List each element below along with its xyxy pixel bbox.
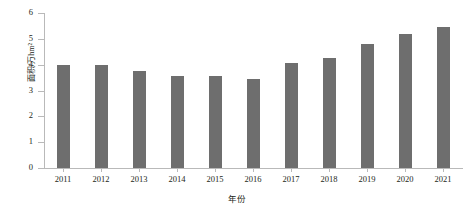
x-tick-label: 2017 bbox=[283, 174, 300, 184]
bar bbox=[209, 76, 222, 168]
x-tick-label: 2013 bbox=[131, 174, 148, 184]
y-axis-tick-labels: 0123456 bbox=[0, 0, 44, 211]
bar-slot bbox=[158, 13, 196, 168]
x-tick-mark bbox=[253, 168, 254, 172]
bar bbox=[361, 44, 374, 168]
x-axis-title: 年份 bbox=[0, 192, 473, 204]
x-tick-label: 2021 bbox=[435, 174, 452, 184]
bar bbox=[171, 76, 184, 168]
x-tick-mark bbox=[405, 168, 406, 172]
x-tick-mark bbox=[443, 168, 444, 172]
x-tick-mark bbox=[291, 168, 292, 172]
bar bbox=[285, 63, 298, 168]
bar-slot bbox=[310, 13, 348, 168]
bar-slot bbox=[234, 13, 272, 168]
y-tick-label: 2 bbox=[0, 111, 33, 120]
bar bbox=[437, 27, 450, 168]
bar-chart: 0123456 面积/万hm² 201120122013201420152016… bbox=[0, 0, 473, 211]
x-tick-mark bbox=[101, 168, 102, 172]
x-tick-label: 2018 bbox=[321, 174, 338, 184]
x-tick-label: 2016 bbox=[245, 174, 262, 184]
bar-slot bbox=[44, 13, 82, 168]
y-tick-label: 0 bbox=[0, 163, 33, 172]
bar-slot bbox=[82, 13, 120, 168]
x-tick-label: 2011 bbox=[55, 174, 72, 184]
bar-series bbox=[44, 13, 462, 168]
bar-slot bbox=[348, 13, 386, 168]
x-tick-mark bbox=[367, 168, 368, 172]
bar bbox=[247, 79, 260, 168]
x-tick-mark bbox=[139, 168, 140, 172]
bar bbox=[95, 65, 108, 168]
x-tick-label: 2020 bbox=[397, 174, 414, 184]
x-tick-label: 2015 bbox=[207, 174, 224, 184]
bar bbox=[57, 65, 70, 168]
x-tick-mark bbox=[177, 168, 178, 172]
x-tick-label: 2012 bbox=[93, 174, 110, 184]
bar-slot bbox=[196, 13, 234, 168]
bar bbox=[323, 58, 336, 168]
bar bbox=[399, 34, 412, 168]
bar-slot bbox=[424, 13, 462, 168]
x-tick-mark bbox=[329, 168, 330, 172]
bar-slot bbox=[272, 13, 310, 168]
x-tick-label: 2014 bbox=[169, 174, 186, 184]
x-tick-label: 2019 bbox=[359, 174, 376, 184]
x-tick-mark bbox=[63, 168, 64, 172]
y-axis-title: 面积/万hm² bbox=[25, 15, 36, 111]
bar-slot bbox=[120, 13, 158, 168]
bar-slot bbox=[386, 13, 424, 168]
bar bbox=[133, 71, 146, 168]
y-tick-label: 1 bbox=[0, 137, 33, 146]
x-tick-mark bbox=[215, 168, 216, 172]
